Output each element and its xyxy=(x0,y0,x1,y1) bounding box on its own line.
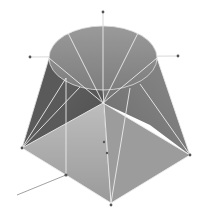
top-axis-point xyxy=(102,11,105,14)
left-axis-point xyxy=(29,56,32,59)
loft-diagram xyxy=(0,0,209,217)
center-mark-2 xyxy=(106,152,108,154)
base-front-left-point xyxy=(64,173,67,176)
base-front-point xyxy=(110,204,113,207)
guide-line xyxy=(17,175,66,195)
center-mark-1 xyxy=(103,141,105,143)
base-left-point xyxy=(21,147,24,150)
base-right-point xyxy=(189,154,192,157)
right-axis-point xyxy=(177,55,180,58)
